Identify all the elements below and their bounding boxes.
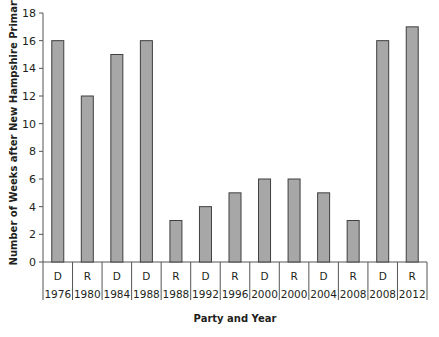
y-tick-label: 2 (29, 228, 36, 241)
bar (318, 193, 330, 262)
category-party-label: R (350, 270, 357, 282)
category-party-label: R (172, 270, 179, 282)
category-year-label: 2008 (369, 288, 396, 300)
bars (52, 27, 418, 262)
bar (170, 221, 182, 263)
x-axis-title: Party and Year (194, 313, 277, 324)
bar-chart: 024681012141618 D1976R1980D1984D1988R198… (0, 0, 439, 337)
category-year-label: 1992 (192, 288, 219, 300)
category-year-label: 2012 (399, 288, 426, 300)
bar (229, 193, 241, 262)
category-year-label: 2008 (340, 288, 367, 300)
category-party-label: D (260, 270, 268, 282)
category-party-label: R (231, 270, 238, 282)
bar (199, 207, 211, 262)
bar (111, 55, 123, 263)
category-year-label: 1988 (133, 288, 160, 300)
y-tick-label: 18 (22, 7, 36, 20)
category-year-label: 1996 (222, 288, 249, 300)
y-tick-label: 16 (22, 35, 36, 48)
category-party-label: D (320, 270, 328, 282)
y-tick-label: 12 (22, 90, 36, 103)
category-year-label: 1984 (103, 288, 130, 300)
y-tick-label: 4 (29, 201, 36, 214)
bar (140, 41, 152, 262)
y-tick-label: 8 (29, 145, 36, 158)
y-tick-label: 0 (29, 256, 36, 269)
category-year-label: 1980 (74, 288, 101, 300)
category-year-label: 2000 (251, 288, 278, 300)
category-year-label: 1988 (163, 288, 190, 300)
category-party-label: D (142, 270, 150, 282)
bar (406, 27, 418, 262)
category-party-label: D (201, 270, 209, 282)
bar (347, 221, 359, 263)
category-party-label: D (113, 270, 121, 282)
category-party-label: R (290, 270, 297, 282)
category-year-label: 1976 (44, 288, 71, 300)
category-year-label: 2004 (310, 288, 337, 300)
x-axis-category-table: D1976R1980D1984D1988R1988D1992R1996D2000… (43, 262, 427, 300)
category-party-label: D (54, 270, 62, 282)
bar (377, 41, 389, 262)
bar (81, 96, 93, 262)
bar (52, 41, 64, 262)
category-party-label: R (409, 270, 416, 282)
y-tick-label: 14 (22, 62, 36, 75)
y-tick-label: 6 (29, 173, 36, 186)
bar (259, 179, 271, 262)
y-axis-title: Number of Weeks after New Hampshire Prim… (8, 0, 19, 265)
category-party-label: D (379, 270, 387, 282)
category-party-label: R (84, 270, 91, 282)
bar (288, 179, 300, 262)
category-year-label: 2000 (281, 288, 308, 300)
y-tick-label: 10 (22, 118, 36, 131)
